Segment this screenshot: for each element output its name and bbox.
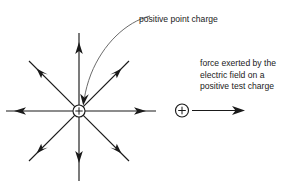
point-charge-label: positive point charge bbox=[139, 14, 218, 24]
field-line-lower-right bbox=[83, 115, 129, 161]
electric-field-diagram: positive point charge force exerted by t… bbox=[0, 0, 308, 185]
field-line-upper-left-shaft bbox=[29, 61, 75, 107]
field-line-upper-right-arrowhead bbox=[110, 69, 121, 79]
field-line-up bbox=[75, 33, 83, 105]
point-charge-leader-curve bbox=[85, 16, 150, 97]
force-label-line-1: force exerted by the bbox=[200, 58, 276, 68]
field-line-upper-right bbox=[83, 61, 129, 107]
field-line-upper-right-shaft bbox=[83, 61, 129, 107]
field-line-lower-left-arrowhead bbox=[37, 144, 48, 154]
field-line-upper-left bbox=[29, 61, 75, 107]
field-line-right bbox=[85, 107, 156, 115]
field-line-lower-right-shaft bbox=[83, 115, 129, 161]
force-label-line-3: positive test charge bbox=[200, 81, 274, 91]
diagram-canvas: positive point charge force exerted by t… bbox=[0, 0, 308, 185]
field-line-left bbox=[6, 107, 73, 115]
source-point-charge bbox=[73, 105, 85, 117]
test-charge-group bbox=[176, 104, 246, 117]
force-label-line-2: electric field on a bbox=[200, 70, 265, 80]
field-line-upper-left-arrowhead bbox=[37, 69, 48, 79]
field-line-lower-left bbox=[29, 115, 75, 161]
field-line-lower-right-arrowhead bbox=[110, 144, 121, 154]
point-charge-leader bbox=[80, 16, 150, 106]
field-line-lower-left-shaft bbox=[29, 115, 75, 161]
field-line-down bbox=[75, 117, 83, 181]
force-label-block: force exerted by the electric field on a… bbox=[200, 58, 276, 91]
